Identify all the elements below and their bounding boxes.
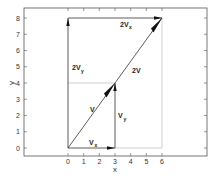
label-2vy: 2V xyxy=(72,64,81,71)
vector-labels: V 2V V x V y 2V y 2V x xyxy=(72,21,141,148)
label-vy: V xyxy=(118,112,123,119)
arrowhead-2v xyxy=(151,18,162,33)
x-tick-labels: 0 1 2 3 4 5 6 xyxy=(66,158,164,165)
y-tick-3: 3 xyxy=(16,96,20,103)
x-axis-label: x xyxy=(113,165,117,174)
label-2vx-sub: x xyxy=(129,24,132,30)
y-tick-5: 5 xyxy=(16,63,20,70)
x-tick-0: 0 xyxy=(66,158,70,165)
label-2vx: 2V xyxy=(120,21,129,28)
y-tick-7: 7 xyxy=(16,31,20,38)
label-vx-sub: x xyxy=(95,142,98,148)
x-tick-2: 2 xyxy=(97,158,101,165)
y-tick-8: 8 xyxy=(16,15,20,22)
y-axis-label: y xyxy=(7,81,16,85)
y-tick-labels: 0 1 2 3 4 5 6 7 8 xyxy=(16,15,20,152)
y-axis-ticks xyxy=(24,18,207,148)
label-v: V xyxy=(90,106,95,113)
arrowhead-v xyxy=(104,83,115,98)
vector-diagram: 0 1 2 3 4 5 6 7 8 0 1 2 3 4 5 6 x y xyxy=(0,0,215,178)
label-2vy-sub: y xyxy=(81,68,84,74)
x-tick-6: 6 xyxy=(160,158,164,165)
x-tick-4: 4 xyxy=(129,158,133,165)
y-tick-2: 2 xyxy=(16,112,20,119)
arrowhead-vx xyxy=(107,146,115,149)
y-tick-1: 1 xyxy=(16,128,20,135)
label-2v: 2V xyxy=(132,67,141,74)
label-vy-sub: y xyxy=(124,116,127,122)
arrowhead-2vy xyxy=(66,18,69,26)
x-tick-5: 5 xyxy=(144,158,148,165)
y-tick-6: 6 xyxy=(16,47,20,54)
y-tick-4: 4 xyxy=(16,80,20,87)
x-tick-1: 1 xyxy=(82,158,86,165)
y-tick-0: 0 xyxy=(16,145,20,152)
label-vx: V xyxy=(89,139,94,146)
x-tick-3: 3 xyxy=(113,158,117,165)
